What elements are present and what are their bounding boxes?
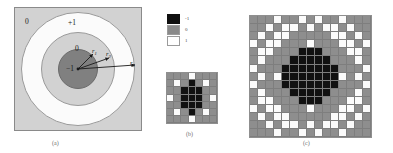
- grid-cell: [196, 73, 203, 80]
- grid-cell: [307, 89, 315, 97]
- radius-label-r3-sub: 3: [133, 63, 135, 68]
- grid-cell: [174, 95, 181, 102]
- grid-cell: [331, 113, 339, 121]
- grid-cell: [167, 95, 174, 102]
- grid-cell: [363, 89, 371, 97]
- grid-cell: [258, 89, 266, 97]
- grid-cell: [355, 48, 363, 56]
- grid-cell: [299, 73, 307, 81]
- grid-cell: [323, 121, 331, 129]
- grid-cell: [282, 48, 290, 56]
- grid-cell: [307, 65, 315, 73]
- grid-cell: [299, 97, 307, 105]
- grid-cell: [282, 65, 290, 73]
- grid-cell: [299, 40, 307, 48]
- grid-cell: [274, 105, 282, 113]
- grid-cell: [290, 129, 298, 137]
- grid-cell: [181, 80, 188, 87]
- grid-cell: [307, 97, 315, 105]
- grid-cell: [331, 32, 339, 40]
- grid-cell: [331, 40, 339, 48]
- grid-cell: [266, 113, 274, 121]
- panel-caption-a: (a): [52, 140, 59, 146]
- grid-cell: [290, 113, 298, 121]
- grid-cell: [266, 81, 274, 89]
- grid-cell: [355, 121, 363, 129]
- grid-cell: [355, 56, 363, 64]
- grid-cell: [250, 65, 258, 73]
- grid-cell: [299, 56, 307, 64]
- legend: -1 0 1: [167, 13, 223, 46]
- grid-cell: [274, 65, 282, 73]
- grid-cell: [274, 32, 282, 40]
- grid-cell: [189, 116, 196, 123]
- legend-entry-one: 1: [167, 35, 223, 46]
- grid-cell: [347, 73, 355, 81]
- grid-cell: [290, 48, 298, 56]
- grid-cell: [282, 32, 290, 40]
- grid-cell: [210, 87, 217, 94]
- grid-cell: [282, 105, 290, 113]
- grid-cell: [274, 81, 282, 89]
- grid-cell: [331, 56, 339, 64]
- grid-cell: [323, 81, 331, 89]
- legend-swatch-gray-icon: [167, 25, 180, 35]
- radius-label-r3: r3: [130, 59, 135, 68]
- grid-cell: [250, 24, 258, 32]
- grid-cell: [339, 65, 347, 73]
- grid-cell: [307, 129, 315, 137]
- grid-cell: [363, 73, 371, 81]
- grid-cell: [210, 80, 217, 87]
- grid-cell: [196, 116, 203, 123]
- grid-cell: [307, 16, 315, 24]
- grid-cell: [189, 102, 196, 109]
- grid-cell: [250, 129, 258, 137]
- grid-cell: [282, 56, 290, 64]
- grid-cell: [299, 16, 307, 24]
- grid-cell: [355, 16, 363, 24]
- grid-cell: [250, 56, 258, 64]
- grid-cell: [315, 89, 323, 97]
- grid-cell: [174, 102, 181, 109]
- grid-cell: [355, 129, 363, 137]
- grid-cell: [258, 40, 266, 48]
- grid-cell: [258, 73, 266, 81]
- grid-cell: [266, 65, 274, 73]
- grid-cell: [299, 113, 307, 121]
- grid-cell: [290, 121, 298, 129]
- grid-cell: [323, 113, 331, 121]
- grid-cell: [315, 113, 323, 121]
- radius-label-r1: r1: [92, 47, 97, 56]
- grid-cell: [307, 40, 315, 48]
- grid-cell: [290, 16, 298, 24]
- grid-cell: [315, 24, 323, 32]
- grid-cell: [181, 116, 188, 123]
- grid-cell: [167, 102, 174, 109]
- grid-cell: [347, 97, 355, 105]
- grid-cell: [290, 97, 298, 105]
- grid-cell: [203, 87, 210, 94]
- radius-label-r2-sub: 2: [109, 54, 111, 59]
- grid-cell: [355, 105, 363, 113]
- grid-cell: [347, 89, 355, 97]
- grid-cell: [258, 48, 266, 56]
- grid-cell: [258, 16, 266, 24]
- grid-cell: [347, 65, 355, 73]
- grid-cell: [282, 121, 290, 129]
- grid-cell: [323, 48, 331, 56]
- grid-cell: [250, 89, 258, 97]
- grid-cell: [323, 16, 331, 24]
- grid-cell: [363, 65, 371, 73]
- grid-cell: [299, 65, 307, 73]
- grid-cell: [274, 56, 282, 64]
- grid-cell: [339, 73, 347, 81]
- grid-cell: [196, 102, 203, 109]
- grid-cell: [266, 97, 274, 105]
- grid-cell: [315, 129, 323, 137]
- grid-cell: [266, 40, 274, 48]
- grid-cell: [290, 73, 298, 81]
- grid-cell: [347, 40, 355, 48]
- grid-cell: [315, 16, 323, 24]
- grid-cell: [355, 81, 363, 89]
- grid-cell: [307, 81, 315, 89]
